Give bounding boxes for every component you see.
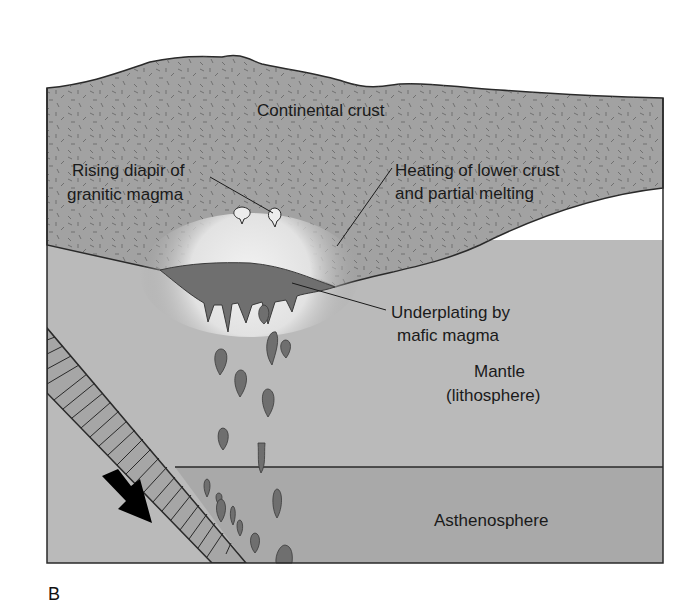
label-heating-2: and partial melting [395, 184, 534, 203]
label-continental-crust: Continental crust [257, 101, 385, 120]
label-mantle-1: Mantle [474, 362, 525, 381]
label-diapir-2: granitic magma [67, 185, 184, 204]
label-underplating-1: Underplating by [391, 303, 511, 322]
label-asthenosphere: Asthenosphere [434, 511, 548, 530]
label-heating-1: Heating of lower crust [395, 161, 560, 180]
panel-label: B [48, 584, 60, 604]
label-diapir-1: Rising diapir of [72, 161, 185, 180]
magma-underplating-diagram: Continental crust Rising diapir of grani… [0, 0, 686, 610]
label-underplating-2: mafic magma [397, 326, 500, 345]
asthenosphere-layer [175, 467, 663, 563]
label-mantle-2: (lithosphere) [446, 386, 541, 405]
